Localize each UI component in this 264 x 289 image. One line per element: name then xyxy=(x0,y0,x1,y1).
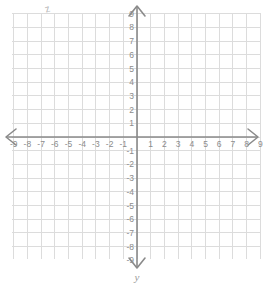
x-tick-label: -4 xyxy=(78,140,86,149)
y-tick-label: 6 xyxy=(129,51,134,60)
y-tick-label: -5 xyxy=(126,201,134,210)
x-tick-label: -3 xyxy=(92,140,100,149)
x-tick-label: 7 xyxy=(231,140,236,149)
y-tick-label: -3 xyxy=(126,174,134,183)
x-tick-label: 2 xyxy=(162,140,167,149)
y-tick-label: -1 xyxy=(126,146,134,155)
y-tick-label: 1 xyxy=(129,119,134,128)
x-tick-label: -8 xyxy=(24,140,32,149)
x-tick-label: -9 xyxy=(10,140,18,149)
y-tick-label: 4 xyxy=(129,78,134,87)
y-tick-label: 7 xyxy=(129,37,134,46)
x-tick-label: 3 xyxy=(176,140,181,149)
y-tick-label: 5 xyxy=(129,64,134,73)
y-tick-label: -2 xyxy=(126,160,134,169)
y-tick-label: 8 xyxy=(129,23,134,32)
x-tick-label: 5 xyxy=(203,140,208,149)
y-tick-label: 3 xyxy=(129,92,134,101)
y-tick-label: -8 xyxy=(126,242,134,251)
y-tick-label: -4 xyxy=(126,188,134,197)
y-tick-label: 9 xyxy=(129,9,134,18)
x-tick-label: -2 xyxy=(106,140,114,149)
x-tick-label: 9 xyxy=(258,140,263,149)
x-tick-label: -5 xyxy=(65,140,73,149)
coordinate-plane-figure: -9-8-7-6-5-4-3-2-1123456789 987654321-1-… xyxy=(0,0,264,289)
y-tick-label: -6 xyxy=(126,215,134,224)
y-tick-label: 2 xyxy=(129,105,134,114)
x-tick-label: -6 xyxy=(51,140,59,149)
y-axis-label: y xyxy=(135,272,140,283)
y-tick-label: -7 xyxy=(126,229,134,238)
grid-lines xyxy=(12,13,260,259)
x-tick-label: 6 xyxy=(217,140,222,149)
x-tick-label: 1 xyxy=(148,140,153,149)
x-tick-label: -7 xyxy=(37,140,45,149)
x-tick-label: 4 xyxy=(189,140,194,149)
x-tick-label: 8 xyxy=(244,140,249,149)
y-tick-label: -9 xyxy=(126,256,134,265)
